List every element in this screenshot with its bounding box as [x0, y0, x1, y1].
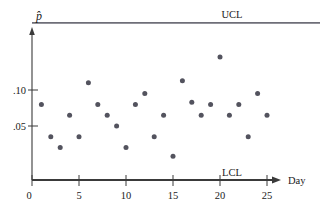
data-point — [124, 145, 129, 150]
data-point — [152, 134, 157, 139]
data-point — [255, 91, 260, 96]
x-tick-label-20: 20 — [215, 190, 226, 201]
x-tick-label-25: 25 — [262, 190, 273, 201]
ucl-label: UCL — [222, 9, 243, 20]
data-point — [48, 134, 53, 139]
y-axis — [29, 27, 35, 180]
data-point — [133, 102, 138, 107]
data-point — [161, 113, 166, 118]
data-point — [114, 124, 119, 129]
x-tick-label-15: 15 — [168, 190, 179, 201]
data-point — [142, 91, 147, 96]
p-control-chart: p̂ .10 .05 0 5 10 15 20 25 Day UCL LCL — [0, 0, 323, 211]
x-tick-label-10: 10 — [121, 190, 132, 201]
data-point — [227, 113, 232, 118]
data-point — [189, 100, 194, 105]
x-axis — [32, 176, 281, 183]
data-point — [236, 102, 241, 107]
data-point — [180, 78, 185, 83]
x-axis-title: Day — [288, 175, 306, 186]
data-point — [77, 134, 82, 139]
data-point — [171, 154, 176, 159]
data-point — [39, 102, 44, 107]
data-points — [39, 54, 270, 158]
lcl-label: LCL — [222, 167, 242, 178]
data-point — [218, 54, 223, 59]
data-point — [67, 113, 72, 118]
x-tick-label-5: 5 — [76, 190, 81, 201]
data-point — [105, 113, 110, 118]
data-point — [265, 113, 270, 118]
y-axis-title: p̂ — [35, 9, 42, 23]
x-axis-arrow-icon — [272, 176, 281, 183]
y-tick-label-05: .05 — [13, 121, 26, 132]
chart-canvas: p̂ .10 .05 0 5 10 15 20 25 Day UCL LCL — [0, 0, 323, 211]
x-tick-label-0: 0 — [26, 190, 31, 201]
y-axis-ticks — [28, 90, 38, 126]
data-point — [199, 113, 204, 118]
data-point — [95, 102, 100, 107]
y-tick-label-10: .10 — [13, 85, 26, 96]
data-point — [58, 145, 63, 150]
data-point — [86, 80, 91, 85]
data-point — [246, 134, 251, 139]
y-axis-arrow-icon — [29, 27, 35, 35]
data-point — [208, 102, 213, 107]
